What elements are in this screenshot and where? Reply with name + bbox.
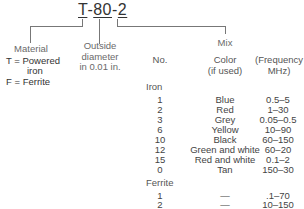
table-row: 0 Tan 150–30 bbox=[0, 165, 304, 175]
leader-line-material-v2 bbox=[30, 26, 31, 43]
table-row: 15 Red and white 0.1–2 bbox=[0, 155, 304, 165]
header-color: Color (if used) bbox=[195, 55, 255, 76]
table-row: 2 Red 1–30 bbox=[0, 105, 304, 115]
header-no: No. bbox=[143, 55, 177, 66]
material-code-t-cont: iron bbox=[27, 66, 43, 77]
group-label-ferrite: Ferrite bbox=[146, 178, 173, 189]
header-frequency: (Frequency MHz) bbox=[252, 55, 304, 76]
part-number-material: T bbox=[78, 1, 87, 18]
mix-label: Mix bbox=[210, 38, 240, 49]
material-code-f: F = Ferrite bbox=[6, 77, 50, 88]
leader-line-material-h bbox=[30, 26, 83, 27]
table-row: 2 — 10–150 bbox=[0, 200, 304, 209]
table-row: 6 Yellow 10–90 bbox=[0, 125, 304, 135]
material-label: Material bbox=[8, 44, 54, 55]
outside-diameter-label: Outside diameter in 0.01 in. bbox=[72, 41, 128, 73]
part-number-size: 80 bbox=[93, 1, 112, 18]
part-number: T-80-2 bbox=[78, 1, 127, 19]
table-row: 3 Grey 0.05–0.5 bbox=[0, 115, 304, 125]
part-number-mix: 2 bbox=[118, 1, 127, 18]
group-label-iron: Iron bbox=[146, 82, 162, 93]
leader-line-mix-h bbox=[117, 26, 226, 27]
table-row: 1 Blue 0.5–5 bbox=[0, 95, 304, 105]
leader-line-mix-v2 bbox=[225, 26, 226, 34]
table-row: 12 Green and white 60–20 bbox=[0, 145, 304, 155]
